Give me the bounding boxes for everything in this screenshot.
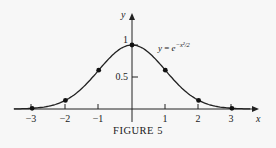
data-point — [196, 98, 201, 103]
x-ticks — [31, 104, 231, 109]
data-point — [230, 106, 235, 111]
y-tick-label: 1 — [123, 34, 128, 45]
x-tick-label: 3 — [229, 113, 234, 124]
data-point — [63, 98, 68, 103]
data-point — [96, 68, 101, 73]
data-point — [30, 106, 35, 111]
x-tick-label: 2 — [196, 113, 201, 124]
data-point — [163, 68, 168, 73]
x-tick-label: −2 — [60, 113, 71, 124]
x-axis-arrow-icon — [252, 106, 259, 112]
y-ticks — [132, 45, 138, 77]
x-tick-label: 1 — [163, 113, 168, 124]
y-axis-label: y — [120, 9, 126, 20]
equation-annotation: y = e−x²/2 — [157, 41, 191, 53]
x-tick-label: −1 — [93, 113, 104, 124]
x-tick-label: −3 — [26, 113, 37, 124]
x-axis-label: x — [255, 113, 261, 124]
data-point — [130, 43, 135, 48]
y-tick-label: 0.5 — [116, 71, 129, 82]
figure-caption: FIGURE 5 — [0, 125, 276, 136]
y-axis-arrow-icon — [129, 13, 135, 20]
